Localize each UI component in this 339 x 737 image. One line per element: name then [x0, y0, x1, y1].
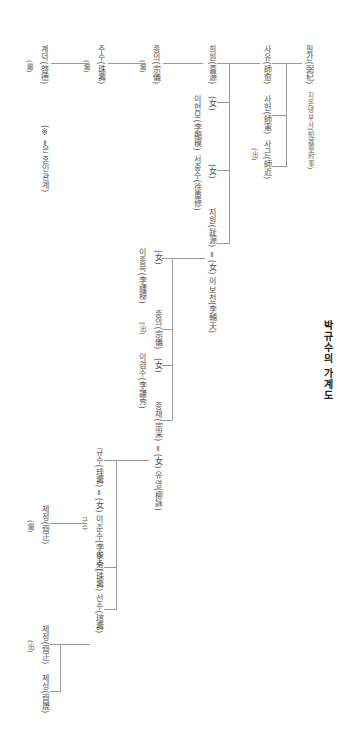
connector	[217, 170, 229, 171]
connector	[286, 63, 287, 167]
person-huiwon: 희원(喜源)	[207, 45, 216, 84]
title-gunsu: 군수	[79, 517, 88, 531]
spouse-lee-hyeonmo: 이현모(李顯模)	[192, 95, 201, 151]
connector	[162, 258, 172, 259]
legend-note: (※ ═은 혼인관계)	[40, 125, 49, 192]
person-jejeong: 제정(齊正)	[40, 625, 49, 664]
connector	[162, 420, 172, 421]
person-daughter-4: (女)	[153, 358, 162, 373]
connector	[217, 102, 229, 103]
connector	[217, 63, 229, 64]
connector	[162, 365, 172, 366]
connector	[116, 460, 117, 610]
mark-adopted: (繼)	[24, 60, 33, 73]
connector	[172, 258, 173, 420]
connector	[50, 523, 86, 524]
person-jusu-adopted: 주수(珠壽)	[96, 45, 105, 84]
connector	[229, 63, 260, 64]
connector	[116, 460, 149, 461]
person-sageun: 사근(師近)	[262, 140, 271, 179]
person-jejeong-adopted: 제정(齊正)	[40, 505, 49, 544]
person-gyusu: 규수(珪壽)	[94, 448, 103, 487]
person-jongchae: 종채(宗采)	[153, 402, 162, 441]
connector	[104, 460, 116, 461]
person-saheon: 사헌(師憲)	[262, 95, 271, 134]
connector	[272, 63, 286, 64]
connector	[104, 567, 116, 568]
connector	[60, 644, 90, 645]
person-daughter-2: (女)	[207, 164, 216, 179]
mark-adopted: (繼)	[25, 520, 34, 533]
person-seonsu: 선수(瑄壽)	[94, 594, 103, 633]
connector	[162, 329, 172, 330]
spouse-seo-jungsu: 서중수(徐重修)	[192, 155, 201, 211]
connector	[286, 63, 302, 64]
connector	[163, 63, 203, 64]
marriage-jongchae: ═ (女) 유영(柳詠)	[153, 446, 162, 511]
page-title: 박규수의 가계도	[323, 320, 332, 401]
connector	[60, 644, 61, 692]
person-sayu: 사유(師愈)	[262, 45, 271, 84]
person-pilgan-office: 지돈녕부사(知敦寧府事)	[305, 92, 314, 169]
spouse-lee-gyeomsu: 이겸수(李謙秀)	[137, 353, 146, 409]
mark-out: (出)	[137, 322, 146, 335]
mark-out: (出)	[249, 148, 258, 161]
person-gyedeok: 계덕(啓德)	[39, 45, 48, 84]
connector	[108, 63, 146, 64]
connector	[217, 243, 229, 244]
connector	[272, 115, 286, 116]
connector	[50, 691, 60, 692]
marriage-jiwon: ═ (女) 이보천(李輔天)	[207, 252, 216, 333]
person-jongui-adopted: 종의(宗儀)	[151, 45, 160, 84]
mark-adopted: (繼)	[137, 60, 146, 73]
mark-out: (出)	[25, 640, 34, 653]
person-jeseong: 제성(齊晟)	[40, 674, 49, 713]
mark-adopted: (繼)	[81, 60, 90, 73]
connector	[50, 644, 60, 645]
person-jiwon: 지원(趾源)	[207, 208, 216, 247]
person-jusu: 주수(珠壽)	[94, 552, 103, 591]
person-daughter-3: (女)	[153, 250, 162, 265]
spouse-lee-jongmok: 이종목(李鍾穆)	[137, 248, 146, 304]
connector	[229, 63, 230, 244]
person-pilgan: 필간(弼杞)	[304, 45, 313, 84]
person-jongui: 종의(宗儀)	[153, 310, 162, 349]
connector	[104, 609, 116, 610]
person-daughter-1: (女)	[207, 96, 216, 111]
connector	[172, 258, 205, 259]
connector	[51, 63, 89, 64]
connector	[272, 166, 286, 167]
